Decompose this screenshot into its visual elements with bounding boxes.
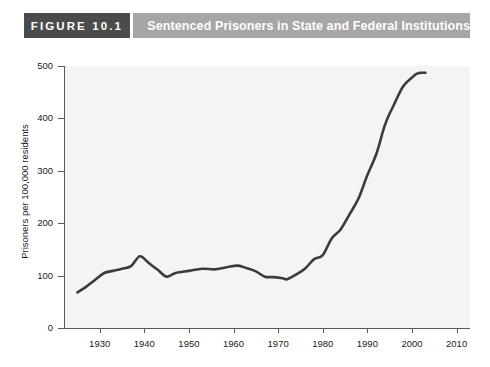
x-axis-line (64, 328, 470, 329)
y-axis-title: Prisoners per 100,000 residents (19, 102, 30, 282)
x-tick-label: 1930 (80, 338, 120, 349)
y-tick-label: 0 (48, 323, 53, 333)
chart-area: Prisoners per 100,000 residents 01002003… (0, 46, 490, 367)
y-tick-label: 200 (37, 218, 53, 228)
figure-title: Sentenced Prisoners in State and Federal… (133, 19, 470, 33)
x-tick-mark (144, 328, 145, 333)
figure-number-label: FIGURE 10.1 (31, 20, 123, 32)
x-tick-label: 1990 (347, 338, 387, 349)
y-tick-label: 500 (37, 61, 53, 71)
y-tick-mark (58, 328, 64, 329)
x-tick-mark (412, 328, 413, 333)
figure-container: FIGURE 10.1 Sentenced Prisoners in State… (0, 0, 490, 367)
y-tick-label: 300 (37, 166, 53, 176)
figure-header: FIGURE 10.1 Sentenced Prisoners in State… (24, 13, 470, 38)
y-tick-label: 100 (37, 271, 53, 281)
figure-number-badge: FIGURE 10.1 (24, 13, 130, 38)
x-tick-label: 2000 (392, 338, 432, 349)
x-tick-label: 1950 (169, 338, 209, 349)
x-tick-mark (100, 328, 101, 333)
x-tick-label: 1960 (214, 338, 254, 349)
data-series-chart (64, 66, 470, 328)
x-tick-mark (457, 328, 458, 333)
x-tick-mark (189, 328, 190, 333)
x-tick-label: 1970 (258, 338, 298, 349)
x-tick-mark (278, 328, 279, 333)
x-tick-label: 2010 (437, 338, 477, 349)
x-tick-mark (367, 328, 368, 333)
figure-title-bar: Sentenced Prisoners in State and Federal… (133, 13, 470, 38)
x-tick-label: 1940 (124, 338, 164, 349)
x-tick-label: 1980 (303, 338, 343, 349)
x-tick-mark (234, 328, 235, 333)
x-tick-mark (323, 328, 324, 333)
y-tick-label: 400 (37, 113, 53, 123)
prisoner-rate-line (77, 73, 425, 293)
